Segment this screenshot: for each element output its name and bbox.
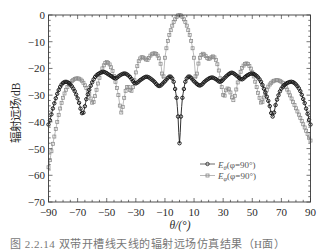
legend-condition: (φ=90°) [227,171,256,181]
figure-caption: 图 2.2.14 双带开槽线天线的辐射远场仿真结果（H面） [10,235,285,251]
y-tick-label: −20 [28,62,46,74]
x-tick-label: 10 [189,206,201,218]
y-tick-label: −10 [28,36,46,48]
y-tick-label: −40 [28,116,46,128]
y-tick-label: 0 [40,9,46,21]
y-tick-label: −60 [28,169,46,181]
x-tick-label: 30 [218,206,230,218]
x-tick-label: 90 [305,206,317,218]
y-axis-label: 辐射远场/dB [9,82,22,143]
y-tick-label: −30 [28,89,46,101]
legend-label-e-theta: Eθ(φ=90°) [217,160,256,171]
y-tick-label: −70 [28,196,46,208]
y-tick-label: −50 [28,143,46,155]
x-tick-label: −10 [156,206,174,218]
x-tick-label: −50 [98,206,116,218]
x-tick-label: 70 [276,206,288,218]
x-tick-label: −70 [69,206,87,218]
legend-label-e-phi: Eφ(φ=90°) [217,171,256,182]
legend-condition: (φ=90°) [227,160,256,170]
x-axis-label: θ/(°) [169,219,190,232]
x-tick-label: 50 [247,206,259,218]
x-tick-label: −30 [127,206,145,218]
